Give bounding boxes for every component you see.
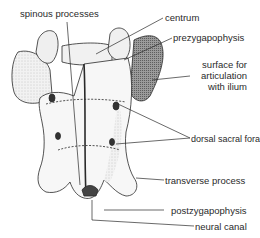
label-centrum: centrum xyxy=(165,13,199,23)
bone-outline xyxy=(12,28,163,198)
label-prezygapophysis: prezygapophysis xyxy=(173,33,244,43)
leader-transverse-process xyxy=(136,178,164,180)
label-postzygapophysis: postzygapophysis xyxy=(171,206,247,216)
label-surface-line-1: surface for xyxy=(201,59,247,70)
label-dorsal-sacral-foramina: dorsal sacral foramina xyxy=(191,134,260,144)
label-surface-articulation: surface for articulation with ilium xyxy=(201,59,247,92)
label-transverse-process: transverse process xyxy=(165,176,245,186)
label-spinous-processes: spinous processes xyxy=(20,9,99,19)
label-surface-line-2: articulation xyxy=(201,70,247,81)
label-surface-line-3: with ilium xyxy=(201,81,247,92)
leader-dorsal-foramina-2 xyxy=(116,138,190,144)
label-neural-canal: neural canal xyxy=(195,222,247,232)
